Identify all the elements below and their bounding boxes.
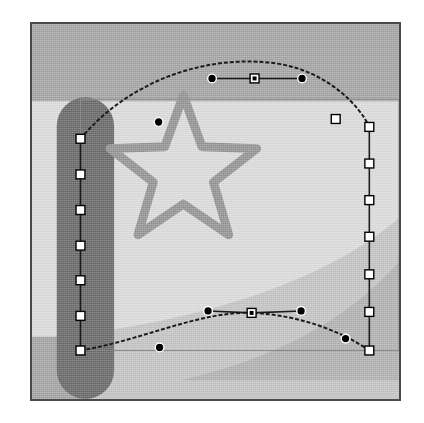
screenshot-root (0, 0, 424, 423)
artboard-canvas[interactable] (30, 22, 401, 401)
dark-rounded-bar (57, 97, 114, 399)
artwork-layer (32, 24, 399, 399)
